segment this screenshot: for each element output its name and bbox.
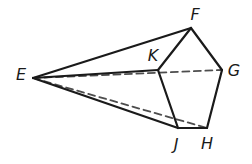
vertex-label-J: J	[171, 135, 179, 154]
edge-HG	[207, 70, 222, 128]
diagram-svg: EFKGJH	[0, 0, 252, 164]
edge-EJ	[33, 78, 178, 128]
edge-EH-dashed	[33, 78, 207, 128]
edge-FG	[191, 28, 222, 70]
edge-EF	[33, 28, 191, 78]
vertex-label-F: F	[190, 5, 200, 24]
vertex-label-K: K	[148, 46, 160, 65]
edge-KJ	[158, 70, 178, 128]
diagram-canvas: EFKGJH	[0, 0, 252, 164]
vertex-label-G: G	[228, 61, 240, 80]
vertex-label-E: E	[16, 65, 27, 84]
vertex-label-H: H	[201, 134, 213, 153]
